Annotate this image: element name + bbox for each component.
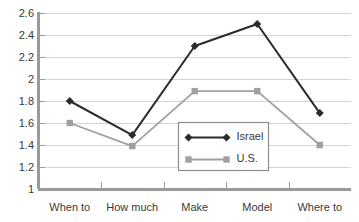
x-axis-tick-labels: When toHow muchMakeModelWhere to — [49, 201, 342, 213]
x-axis-tick-label: How much — [106, 201, 158, 213]
data-point-us-3 — [254, 88, 260, 94]
y-axis-tick-label: 1.2 — [19, 161, 34, 173]
y-axis-tick-label: 2.6 — [19, 7, 34, 19]
x-axis-tick-label: Where to — [297, 201, 342, 213]
legend-marker-start-1 — [185, 156, 191, 162]
legend-label-us: U.S. — [237, 152, 258, 164]
y-axis-tick-label: 1.4 — [19, 139, 34, 151]
y-axis-tick-label: 1.6 — [19, 117, 34, 129]
x-axis-tick-marks — [102, 182, 290, 189]
data-point-us-2 — [192, 88, 198, 94]
y-axis-tick-label: 1.8 — [19, 95, 34, 107]
data-point-us-1 — [129, 143, 135, 149]
chart-canvas: 2.62.42.221.81.61.41.21 When toHow muchM… — [0, 0, 359, 222]
data-point-us-4 — [317, 142, 323, 148]
y-axis-tick-labels: 2.62.42.221.81.61.41.21 — [19, 7, 34, 195]
data-point-israel-0 — [66, 97, 74, 105]
data-point-us-0 — [67, 120, 73, 126]
x-axis-tick-label: Model — [242, 201, 272, 213]
x-axis-tick-label: Make — [181, 201, 208, 213]
chart-legend: IsraelU.S. — [179, 123, 269, 171]
legend-marker-end-1 — [223, 156, 229, 162]
line-chart: 2.62.42.221.81.61.41.21 When toHow muchM… — [0, 0, 359, 222]
y-axis-tick-label: 1 — [28, 183, 34, 195]
y-axis-tick-label: 2.2 — [19, 51, 34, 63]
y-axis-tick-label: 2.4 — [19, 29, 34, 41]
legend-label-israel: Israel — [237, 130, 264, 142]
x-axis-tick-label: When to — [49, 201, 90, 213]
y-axis-tick-label: 2 — [28, 73, 34, 85]
